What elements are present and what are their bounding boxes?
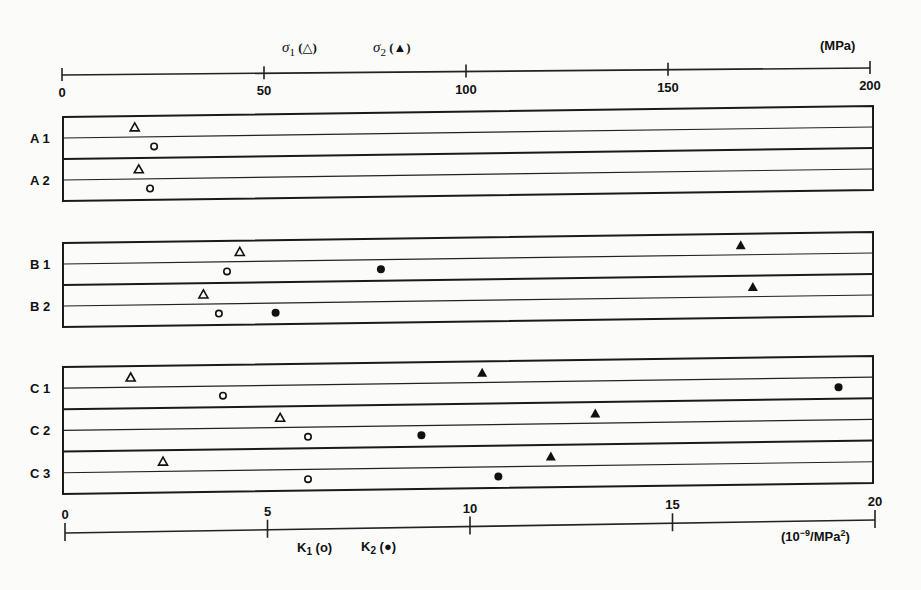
sigma1-open-triangle-marker [134, 165, 143, 173]
row-label-c2: C 2 [30, 423, 50, 438]
k1-axis-label: K1 (o) [297, 540, 332, 557]
row-label-a1: A 1 [30, 131, 50, 146]
k1-open-circle-marker [151, 143, 157, 149]
k2-filled-circle-marker [417, 431, 425, 439]
panel-b: B 1B 2 [30, 232, 873, 327]
row-label-b2: B 2 [30, 299, 50, 314]
sigma1-open-triangle-marker [130, 123, 139, 131]
k2-filled-circle-marker [835, 383, 843, 391]
sigma2-filled-triangle-marker [736, 240, 746, 249]
k2-filled-circle-marker [494, 473, 502, 481]
top-tick-label: 150 [657, 80, 679, 95]
top-tick-label: 50 [257, 83, 271, 98]
sigma2-filled-triangle-marker [748, 282, 758, 291]
top-tick-label: 0 [58, 85, 65, 100]
k2-filled-circle-marker [377, 265, 385, 273]
sigma2-filled-triangle-marker [477, 368, 487, 377]
top-axis-unit: (MPa) [820, 38, 855, 53]
sigma1-open-triangle-marker [126, 373, 135, 381]
k1-open-circle-marker [147, 185, 153, 191]
sigma1-open-triangle-marker [235, 247, 244, 255]
k2-axis-label: K2 (●) [361, 539, 396, 556]
k2-filled-circle-marker [272, 309, 280, 317]
bottom-axis-unit: (10−9/MPa2) [781, 528, 850, 544]
panels: A 1A 2B 1B 2C 1C 2C 3 [30, 106, 873, 494]
k1-open-circle-marker [216, 310, 222, 316]
sigma1-open-triangle-marker [159, 457, 168, 465]
row-label-a2: A 2 [30, 173, 50, 188]
k1-open-circle-marker [220, 393, 226, 399]
row-label-b1: B 1 [30, 257, 50, 272]
bottom-tick-label: 10 [463, 501, 477, 516]
chart-canvas: σ1 (△) σ2 (▲) (MPa) 050100150200 A 1A 2B… [0, 0, 921, 590]
bottom-tick-label: 0 [61, 507, 68, 522]
top-tick-label: 200 [859, 78, 881, 93]
bottom-tick-label: 15 [665, 497, 679, 512]
bottom-axis: 05101520 K1 (o) K2 (●) (10−9/MPa2) [61, 494, 882, 557]
sigma1-open-triangle-marker [199, 290, 208, 298]
sigma2-filled-triangle-marker [546, 451, 556, 460]
panel-a: A 1A 2 [30, 106, 873, 201]
k1-open-circle-marker [224, 268, 230, 274]
bottom-tick-label: 5 [264, 504, 271, 519]
top-axis: σ1 (△) σ2 (▲) (MPa) 050100150200 [58, 38, 880, 100]
bottom-tick-label: 20 [868, 494, 882, 509]
sigma2-axis-label: σ2 (▲) [373, 39, 411, 58]
sigma1-open-triangle-marker [276, 413, 285, 421]
sigma2-filled-triangle-marker [590, 408, 600, 417]
k1-open-circle-marker [305, 476, 311, 482]
k1-open-circle-marker [305, 434, 311, 440]
row-label-c1: C 1 [30, 381, 50, 396]
panel-c: C 1C 2C 3 [30, 356, 873, 494]
row-label-c3: C 3 [30, 466, 50, 481]
top-tick-label: 100 [455, 82, 477, 97]
sigma1-axis-label: σ1 (△) [282, 39, 317, 58]
